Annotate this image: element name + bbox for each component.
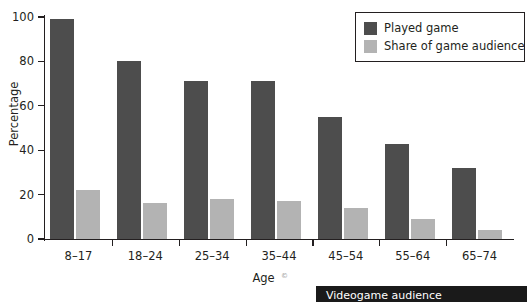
bar-share-of-game-audience-8–17 (76, 190, 100, 239)
legend-swatch-icon (364, 22, 377, 35)
bar-share-of-game-audience-55–64 (411, 219, 435, 239)
bar-played-game-45–54 (318, 117, 342, 239)
bottom-banner-text: Videogame audience (326, 289, 442, 302)
y-tick-mark (38, 61, 44, 62)
bar-played-game-25–34 (184, 81, 208, 239)
bar-share-of-game-audience-35–44 (277, 201, 301, 239)
bar-share-of-game-audience-25–34 (210, 199, 234, 239)
y-tick-label: 100 (0, 11, 34, 23)
chart-legend: Played gameShare of game audience (355, 12, 525, 62)
bar-played-game-55–64 (385, 144, 409, 239)
y-tick-mark (38, 105, 44, 106)
bar-played-game-35–44 (251, 81, 275, 239)
legend-swatch-icon (364, 40, 377, 53)
legend-label: Played game (384, 22, 459, 35)
bar-share-of-game-audience-65–74 (478, 230, 502, 239)
y-tick-mark (38, 16, 44, 17)
legend-label: Share of game audience (384, 40, 524, 53)
x-tick-mark (112, 240, 113, 246)
bar-played-game-18–24 (117, 61, 141, 239)
x-axis-title: Age (0, 272, 527, 285)
y-tick-mark (38, 194, 44, 195)
y-tick-label: 0 (0, 233, 34, 245)
y-tick-mark (38, 238, 44, 239)
x-tick-mark (379, 240, 380, 246)
x-tick-mark (246, 240, 247, 246)
x-tick-label: 65–74 (440, 250, 520, 263)
bar-chart: 020406080100 Percentage 8–1718–2425–3435… (0, 0, 527, 302)
y-tick-label: 20 (0, 189, 34, 201)
y-axis-title: Percentage (8, 64, 20, 164)
legend-item: Share of game audience (364, 37, 516, 55)
x-axis-line (44, 239, 514, 240)
x-tick-mark (446, 240, 447, 246)
bottom-banner: Videogame audience (316, 286, 527, 302)
bar-played-game-65–74 (452, 168, 476, 239)
y-tick-mark (38, 150, 44, 151)
copyright-mark: © (281, 272, 288, 280)
x-tick-mark (312, 240, 313, 246)
x-tick-mark (179, 240, 180, 246)
bar-share-of-game-audience-45–54 (344, 208, 368, 239)
bar-played-game-8–17 (50, 19, 74, 239)
bar-share-of-game-audience-18–24 (143, 203, 167, 239)
legend-item: Played game (364, 19, 516, 37)
